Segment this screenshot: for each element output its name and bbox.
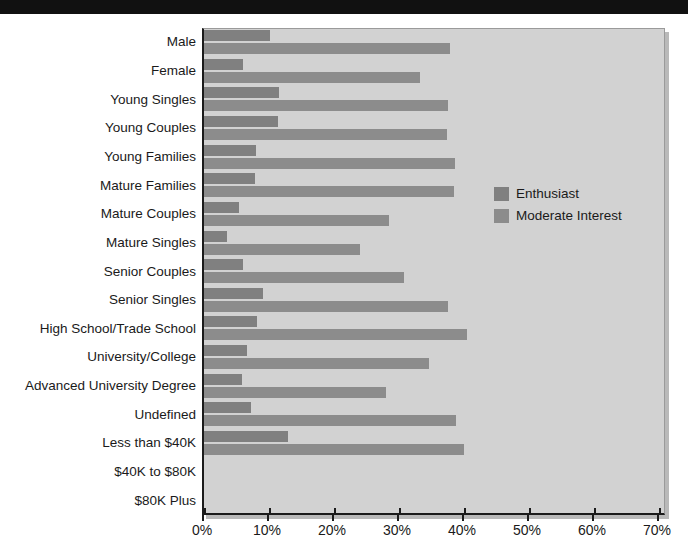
- bar-enthusiast: [204, 173, 255, 184]
- x-axis-tick: [527, 515, 529, 521]
- chart-legend: EnthusiastModerate Interest: [494, 184, 664, 228]
- legend-item: Enthusiast: [494, 184, 664, 203]
- x-axis-tick-label: 20%: [309, 522, 355, 538]
- plot-area: [202, 28, 665, 515]
- bar-rows: [204, 29, 664, 513]
- y-axis-tick-label: $80K Plus: [0, 494, 196, 508]
- y-axis-tick-label: Undefined: [0, 408, 196, 422]
- bar-row: [204, 115, 664, 144]
- bar-enthusiast: [204, 288, 263, 299]
- y-axis-tick-label: Mature Singles: [0, 236, 196, 250]
- y-axis-tick-label: Young Singles: [0, 93, 196, 107]
- bar-moderate-interest: [204, 72, 420, 83]
- x-axis-inner-tick: [529, 508, 531, 513]
- x-axis-inner-tick: [659, 508, 661, 513]
- x-axis-tick: [332, 515, 334, 521]
- bar-enthusiast: [204, 316, 257, 327]
- y-axis-tick-label: University/College: [0, 350, 196, 364]
- bar-enthusiast: [204, 431, 288, 442]
- bar-enthusiast: [204, 402, 251, 413]
- bar-enthusiast: [204, 202, 239, 213]
- x-axis-tick-label: 70%: [634, 522, 680, 538]
- bar-moderate-interest: [204, 244, 360, 255]
- y-axis-labels: MaleFemaleYoung SinglesYoung CouplesYoun…: [0, 28, 196, 515]
- bar-enthusiast: [204, 30, 270, 41]
- x-axis-tick-label: 40%: [439, 522, 485, 538]
- bar-moderate-interest: [204, 186, 454, 197]
- y-axis-tick-label: High School/Trade School: [0, 322, 196, 336]
- bar-row: [204, 58, 664, 87]
- y-axis-tick-label: Advanced University Degree: [0, 379, 196, 393]
- bar-enthusiast: [204, 345, 247, 356]
- bar-row: [204, 401, 664, 430]
- bar-row: [204, 287, 664, 316]
- bar-moderate-interest: [204, 358, 429, 369]
- x-axis-tick-label: 10%: [244, 522, 290, 538]
- y-axis-tick-label: Male: [0, 35, 196, 49]
- x-axis-tick-label: 30%: [374, 522, 420, 538]
- bar-moderate-interest: [204, 415, 456, 426]
- scan-border-bottom: [0, 539, 688, 545]
- legend-label: Enthusiast: [516, 186, 579, 201]
- bar-row: [204, 144, 664, 173]
- legend-label: Moderate Interest: [516, 208, 622, 223]
- x-axis-inner-tick: [334, 508, 336, 513]
- scan-border-top: [0, 0, 688, 14]
- x-axis-tick: [202, 515, 204, 521]
- y-axis-tick-label: Young Families: [0, 150, 196, 164]
- x-axis-inner-tick: [464, 508, 466, 513]
- bar-row: [204, 344, 664, 373]
- bar-moderate-interest: [204, 129, 447, 140]
- bar-row: [204, 29, 664, 58]
- bar-row: [204, 258, 664, 287]
- x-axis-tick-label: 0%: [179, 522, 225, 538]
- bar-row: [204, 459, 664, 488]
- x-axis-tick-label: 50%: [504, 522, 550, 538]
- x-axis-tick: [592, 515, 594, 521]
- bar-row: [204, 315, 664, 344]
- x-axis-tick: [462, 515, 464, 521]
- bar-row: [204, 373, 664, 402]
- legend-item: Moderate Interest: [494, 206, 664, 225]
- bar-enthusiast: [204, 231, 227, 242]
- x-axis-inner-tick: [269, 508, 271, 513]
- bar-enthusiast: [204, 374, 242, 385]
- bar-enthusiast: [204, 116, 278, 127]
- bar-enthusiast: [204, 59, 243, 70]
- bar-moderate-interest: [204, 301, 448, 312]
- bar-moderate-interest: [204, 215, 389, 226]
- bar-moderate-interest: [204, 329, 467, 340]
- bar-moderate-interest: [204, 444, 464, 455]
- bar-enthusiast: [204, 87, 279, 98]
- y-axis-tick-label: Female: [0, 64, 196, 78]
- y-axis-tick-label: Senior Singles: [0, 293, 196, 307]
- horizontal-bar-chart: MaleFemaleYoung SinglesYoung CouplesYoun…: [0, 14, 688, 539]
- x-axis-tick: [397, 515, 399, 521]
- y-axis-tick-label: Mature Couples: [0, 207, 196, 221]
- legend-swatch-icon: [494, 187, 509, 201]
- y-axis-tick-label: Senior Couples: [0, 265, 196, 279]
- x-axis-tick: [657, 515, 659, 521]
- bar-row: [204, 230, 664, 259]
- bar-moderate-interest: [204, 43, 450, 54]
- y-axis-tick-label: $40K to $80K: [0, 465, 196, 479]
- y-axis-tick-label: Mature Families: [0, 179, 196, 193]
- bar-moderate-interest: [204, 158, 455, 169]
- x-axis-tick: [267, 515, 269, 521]
- bar-row: [204, 86, 664, 115]
- bar-moderate-interest: [204, 100, 448, 111]
- bar-enthusiast: [204, 259, 243, 270]
- bar-enthusiast: [204, 145, 256, 156]
- x-axis-inner-tick: [204, 508, 206, 513]
- x-axis-tick-label: 60%: [569, 522, 615, 538]
- bar-moderate-interest: [204, 387, 386, 398]
- bar-moderate-interest: [204, 272, 404, 283]
- y-axis-tick-label: Less than $40K: [0, 436, 196, 450]
- y-axis-tick-label: Young Couples: [0, 121, 196, 135]
- x-axis-inner-tick: [594, 508, 596, 513]
- legend-swatch-icon: [494, 209, 509, 223]
- bar-row: [204, 430, 664, 459]
- x-axis-inner-tick: [399, 508, 401, 513]
